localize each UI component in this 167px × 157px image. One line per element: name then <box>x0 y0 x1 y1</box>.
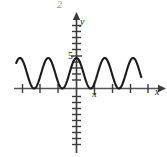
y-axis-label: y <box>80 17 84 27</box>
x-axis-label: x <box>155 87 159 97</box>
y-tick-label-5: 5 <box>68 51 73 61</box>
x-tick-label-pi: π <box>92 90 97 99</box>
graph-figure: 2 y x 5 π <box>0 0 167 157</box>
figure-number-label: 2 <box>57 0 62 10</box>
